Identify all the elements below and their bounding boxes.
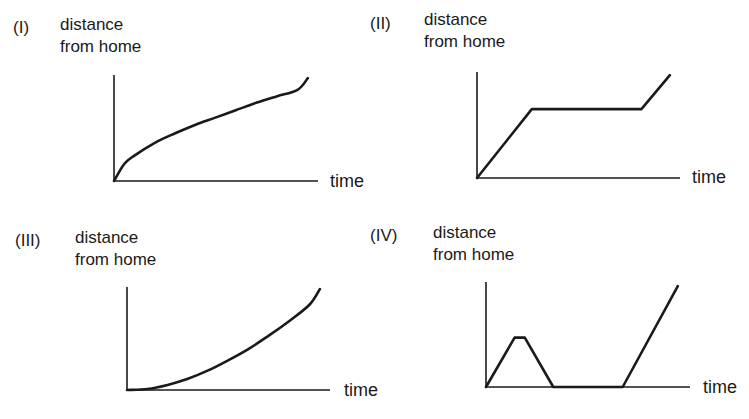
distance-time-curve-2	[477, 75, 670, 178]
graphs-canvas	[0, 0, 749, 419]
distance-time-curve-3	[127, 289, 320, 390]
distance-time-curve-1	[114, 78, 308, 181]
graph-1	[114, 75, 318, 181]
graph-4	[486, 282, 690, 387]
graph-3	[127, 287, 330, 390]
distance-time-curve-4	[486, 286, 678, 387]
graph-2	[477, 72, 680, 178]
